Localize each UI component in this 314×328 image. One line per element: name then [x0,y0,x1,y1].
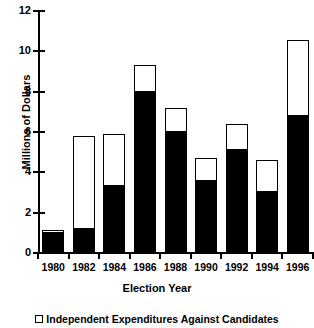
x-axis-tick [129,252,131,259]
plot-area [38,11,313,253]
x-axis-tick-label: 1996 [281,261,314,273]
x-axis-tick [159,252,161,259]
bar-segment-for [134,92,156,253]
x-axis-tick [37,252,39,259]
y-axis-tick-label: 4 [0,165,31,177]
x-axis-tick-label: 1984 [97,261,131,273]
bar-segment-for [195,181,217,253]
y-axis-tick-label: 12 [0,4,31,16]
x-axis-tick [98,252,100,259]
bar-segment-for [287,116,309,253]
x-axis-tick-label: 1986 [128,261,162,273]
bar-segment-for [103,186,125,253]
bar-1980 [42,230,64,253]
y-axis-tick-label: 10 [0,44,31,56]
x-axis-tick-label: 1980 [36,261,70,273]
x-axis-tick [190,252,192,259]
bar-1992 [226,124,248,253]
x-axis-tick [251,252,253,259]
open-square-icon [35,315,43,323]
bar-segment-against [165,108,187,132]
bar-segment-against [195,158,217,181]
y-axis-tick-label: 2 [0,206,31,218]
bar-1986 [134,65,156,253]
y-axis-tick-label: 6 [0,125,31,137]
x-axis-tick [220,252,222,259]
y-axis-tick-label: 8 [0,85,31,97]
bar-segment-for [42,233,64,253]
bar-segment-against [287,40,309,116]
bar-1988 [165,108,187,253]
x-axis-tick [281,252,283,259]
bar-segment-against [73,136,95,229]
bar-1994 [256,160,278,253]
bar-1984 [103,134,125,253]
x-axis-tick-label: 1990 [189,261,223,273]
chart-legend: Independent Expenditures Against Candida… [0,313,314,325]
legend-item-against: Independent Expenditures Against Candida… [35,313,278,325]
bar-segment-for [226,150,248,253]
x-axis-tick [68,252,70,259]
bar-1996 [287,40,309,253]
bar-segment-against [134,65,156,91]
bar-1982 [73,136,95,253]
bar-segment-for [256,192,278,254]
x-axis-tick-label: 1988 [159,261,193,273]
bar-segment-for [165,132,187,253]
bar-segment-against [103,134,125,186]
bar-segment-against [256,160,278,191]
x-axis-tick-label: 1982 [67,261,101,273]
bar-segment-against [226,124,248,150]
x-axis-tick-label: 1992 [220,261,254,273]
bar-segment-for [73,229,95,253]
x-axis-tick-label: 1994 [250,261,284,273]
legend-item-label: Independent Expenditures Against Candida… [46,313,278,325]
x-axis-tick [312,252,314,259]
bar-1990 [195,158,217,253]
x-axis-title: Election Year [0,282,314,294]
chart-container: Millions of Dollars 024681012 1980198219… [0,0,314,328]
y-axis-title: Millions of Dollars [20,42,32,202]
y-axis-tick-label: 0 [0,246,31,258]
